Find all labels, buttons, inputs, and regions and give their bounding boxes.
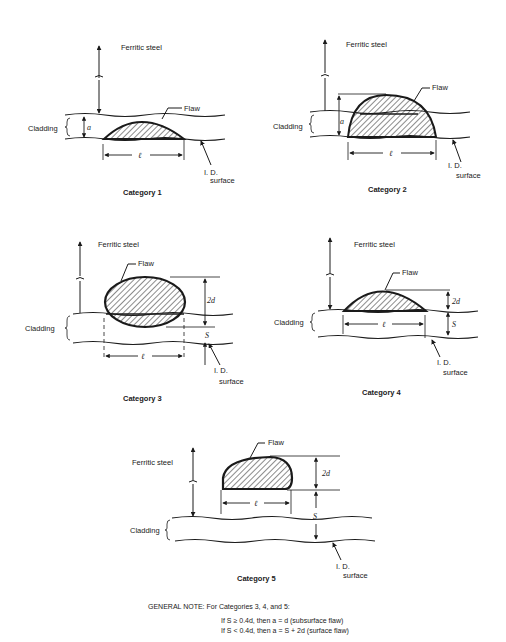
svg-text:Flaw: Flaw xyxy=(432,83,448,92)
svg-text:surface: surface xyxy=(219,377,244,386)
svg-text:2d: 2d xyxy=(452,297,461,306)
svg-text:I. D.: I. D. xyxy=(437,358,451,367)
a-dimension-label: a xyxy=(87,123,91,132)
svg-text:I. D.: I. D. xyxy=(214,366,228,375)
svg-text:ℓ: ℓ xyxy=(382,320,386,329)
general-note-line-1: If S ≥ 0.4d, then a = d (subsurface flaw… xyxy=(221,616,343,626)
flaw-shape xyxy=(344,292,426,312)
svg-text:Ferritic steel: Ferritic steel xyxy=(132,458,173,467)
svg-text:Ferritic steel: Ferritic steel xyxy=(346,40,387,49)
svg-text:Cladding: Cladding xyxy=(130,526,160,535)
svg-text:Cladding: Cladding xyxy=(273,122,303,131)
svg-text:Flaw: Flaw xyxy=(402,268,418,277)
category-5: Ferritic steel 2d S Cladding ℓ Flaw I. D… xyxy=(130,438,375,583)
svg-text:surface: surface xyxy=(343,571,368,580)
svg-text:Category 3: Category 3 xyxy=(123,394,162,403)
flaw-shape xyxy=(223,457,292,489)
svg-text:Category 2: Category 2 xyxy=(368,185,407,194)
svg-text:2d: 2d xyxy=(207,296,216,305)
category-3: Ferritic steel 2d S Cladding ℓ Flaw I. D… xyxy=(25,240,244,403)
svg-text:Ferritic steel: Ferritic steel xyxy=(98,240,139,249)
flaw-categories-diagram: Ferritic steel a Cladding ℓ Flaw I. D. s… xyxy=(0,0,506,642)
svg-text:Flaw: Flaw xyxy=(268,438,284,447)
l-dimension-label: ℓ xyxy=(138,151,142,160)
flaw-shape xyxy=(105,277,185,327)
cladding-label: Cladding xyxy=(28,124,58,133)
svg-text:I. D.: I. D. xyxy=(448,161,462,170)
category-1: Ferritic steel a Cladding ℓ Flaw I. D. s… xyxy=(28,43,235,197)
ferritic-steel-label: Ferritic steel xyxy=(121,43,162,52)
svg-text:S: S xyxy=(205,331,209,340)
flaw-shape xyxy=(348,95,436,137)
flaw-shape xyxy=(104,122,184,139)
svg-text:Ferritic steel: Ferritic steel xyxy=(354,240,395,249)
category-caption: Category 1 xyxy=(123,188,162,197)
svg-text:ℓ: ℓ xyxy=(389,149,393,158)
flaw-label: Flaw xyxy=(184,104,200,113)
svg-text:Category 5: Category 5 xyxy=(237,574,276,583)
svg-text:Category 4: Category 4 xyxy=(362,388,402,397)
svg-text:S: S xyxy=(313,512,317,521)
svg-text:surface: surface xyxy=(456,171,481,180)
svg-text:Cladding: Cladding xyxy=(25,324,55,333)
svg-text:I. D.: I. D. xyxy=(336,562,350,571)
category-2: Ferritic steel a Cladding ℓ Flaw I. D. s… xyxy=(273,40,481,194)
general-note-heading: GENERAL NOTE: For Categories 3, 4, and 5… xyxy=(148,602,290,612)
category-4: Ferritic steel 2d S Cladding ℓ Flaw I. D… xyxy=(274,238,478,397)
general-note-line-2: If S < 0.4d, then a = S + 2d (surface fl… xyxy=(221,626,349,636)
svg-text:surface: surface xyxy=(210,176,235,185)
svg-text:surface: surface xyxy=(443,368,468,377)
svg-text:Cladding: Cladding xyxy=(274,318,304,327)
svg-text:S: S xyxy=(452,320,456,329)
svg-text:ℓ: ℓ xyxy=(254,499,258,508)
svg-text:Flaw: Flaw xyxy=(138,259,154,268)
svg-text:ℓ: ℓ xyxy=(141,352,145,361)
svg-text:2d: 2d xyxy=(322,469,331,478)
svg-text:a: a xyxy=(340,117,344,126)
